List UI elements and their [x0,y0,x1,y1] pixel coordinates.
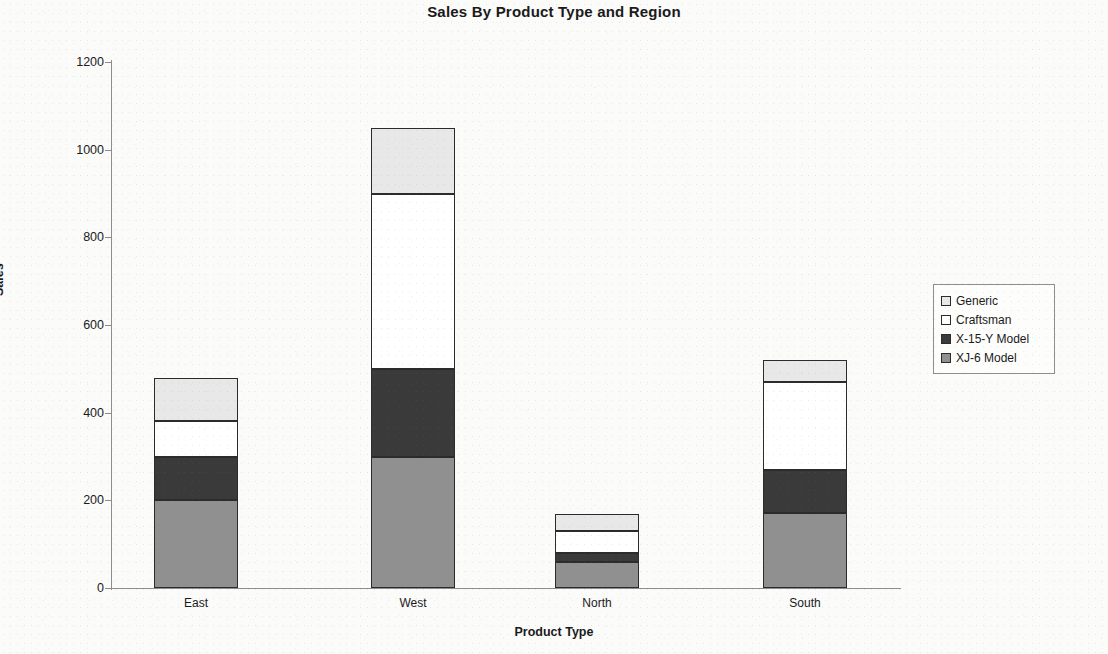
x-axis-title: Product Type [0,625,1108,639]
bar-segment [555,514,639,532]
y-axis-tick-label: 800 [40,231,104,243]
legend-label: Craftsman [956,314,1011,326]
bar-segment [763,470,847,514]
bar-segment [371,194,455,369]
y-axis-tick-label: 1000 [40,144,104,156]
legend-swatch-icon [941,334,951,344]
x-axis-line [111,588,901,589]
bar-segment [763,513,847,588]
bar-segment [371,457,455,589]
x-axis-category-label: West [343,596,483,610]
bar-segment [154,457,238,501]
bar-segment [763,382,847,470]
bar-segment [154,378,238,422]
x-axis-category-label: East [126,596,266,610]
chart-canvas: Sales By Product Type and Region 0200400… [0,0,1108,654]
legend-item: Craftsman [941,310,1048,329]
y-axis-tick [105,237,112,238]
legend-swatch-icon [941,296,951,306]
bar-segment [371,369,455,457]
bar-segment [555,562,639,588]
y-axis-title: Sales [0,263,6,296]
legend-label: Generic [956,295,998,307]
y-axis-tick-label: 400 [40,407,104,419]
y-axis-tick-label: 200 [40,494,104,506]
y-axis-tick-label: 0 [40,582,104,594]
bar-segment [154,500,238,588]
x-axis-category-label: North [527,596,667,610]
bar-segment [154,421,238,456]
chart-legend: GenericCraftsmanX-15-Y ModelXJ-6 Model [933,284,1055,374]
bar-segment [555,553,639,562]
y-axis-tick [105,588,112,589]
legend-item: X-15-Y Model [941,329,1048,348]
y-axis-tick-label: 1200 [40,56,104,68]
y-axis-tick [105,500,112,501]
legend-item: Generic [941,291,1048,310]
plot-area [112,62,880,588]
y-axis-tick [105,62,112,63]
legend-label: X-15-Y Model [956,333,1029,345]
legend-label: XJ-6 Model [956,352,1017,364]
legend-swatch-icon [941,353,951,363]
bar-segment [555,531,639,553]
y-axis-tick-label: 600 [40,319,104,331]
x-axis-category-label: South [735,596,875,610]
y-axis-tick [105,325,112,326]
bar-segment [763,360,847,382]
y-axis-tick [105,150,112,151]
y-axis-tick [105,413,112,414]
chart-title: Sales By Product Type and Region [0,3,1108,20]
bar-segment [371,128,455,194]
legend-item: XJ-6 Model [941,348,1048,367]
legend-swatch-icon [941,315,951,325]
